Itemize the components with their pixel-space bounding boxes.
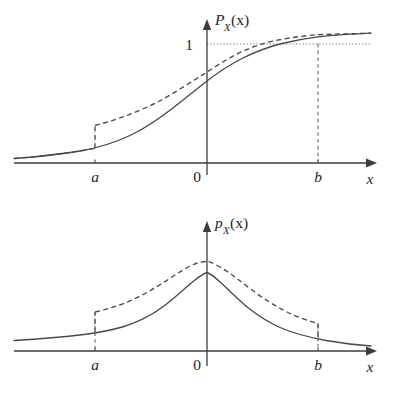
figure-container: 1 P X (x) a 0 b x bbox=[0, 0, 396, 395]
cdf-y-axis-arrow-icon bbox=[203, 19, 211, 30]
pdf-xtick-label-zero: 0 bbox=[193, 356, 201, 373]
cdf-xtick-label-zero: 0 bbox=[193, 168, 201, 185]
cdf-xtick-label-a: a bbox=[91, 168, 99, 185]
cdf-conditional-saturation bbox=[318, 33, 371, 34]
pdf-ylabel-argument: (x) bbox=[230, 214, 248, 232]
pdf-ylabel-subscript: X bbox=[222, 225, 230, 236]
cdf-panel: 1 P X (x) a 0 b x bbox=[14, 11, 377, 187]
cdf-y-axis-label: P X (x) bbox=[214, 11, 249, 33]
pdf-xtick-label-a: a bbox=[91, 356, 99, 373]
pdf-y-axis-label: p X (x) bbox=[214, 214, 248, 236]
cdf-conditional-curve bbox=[14, 148, 95, 158]
pdf-xtick-label-b: b bbox=[314, 356, 322, 373]
pdf-x-axis-label: x bbox=[366, 358, 374, 375]
pdf-x-axis-arrow-icon bbox=[366, 347, 377, 356]
pdf-ylabel-main: p bbox=[214, 214, 223, 231]
cdf-ylabel-argument: (x) bbox=[231, 11, 249, 29]
cdf-ylabel-subscript: X bbox=[223, 22, 231, 33]
pdf-y-axis-arrow-icon bbox=[203, 221, 211, 232]
cdf-ytick-label-one: 1 bbox=[185, 36, 193, 53]
cdf-x-axis-label: x bbox=[366, 170, 374, 187]
pdf-panel: p X (x) a 0 b x bbox=[14, 214, 377, 375]
cdf-xtick-label-b: b bbox=[314, 168, 322, 185]
cdf-x-axis-arrow-icon bbox=[366, 159, 377, 168]
